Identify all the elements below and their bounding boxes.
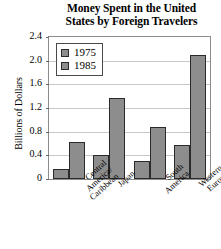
bar-1985-3 (150, 127, 166, 179)
legend: 1975 1985 (56, 43, 103, 76)
legend-swatch-1985 (61, 62, 69, 70)
chart-title-line-2: States by Foreign Travelers (44, 15, 219, 28)
legend-label-1985: 1985 (74, 60, 96, 71)
chart-title: Money Spent in the United States by Fore… (44, 2, 219, 27)
bar-group (174, 37, 206, 179)
legend-swatch-1975 (61, 49, 69, 57)
bar-chart: Money Spent in the United States by Fore… (0, 0, 221, 249)
bar-1985-4 (190, 55, 206, 179)
chart-title-line-1: Money Spent in the United (44, 2, 219, 15)
y-axis-tick-label: 2.0 (16, 55, 42, 65)
legend-item-1985: 1985 (61, 59, 96, 72)
bar-1985-2 (109, 98, 125, 179)
y-axis-tick-label: 1.2 (16, 102, 42, 112)
legend-item-1975: 1975 (61, 46, 96, 59)
bar-group (134, 37, 166, 179)
bar-1975-1 (53, 169, 69, 179)
y-axis-tick-label: 0.8 (16, 126, 42, 136)
y-axis-tick-label: 0 (16, 173, 42, 183)
y-axis-tick-label: 2.4 (16, 31, 42, 41)
y-axis-tick-label: 0.4 (16, 149, 42, 159)
y-axis-tick (46, 179, 49, 180)
x-axis-category-labels: CentralAmerica/CaribbeanJapanSouthAmeric… (48, 182, 211, 248)
y-axis-tick-label: 1.6 (16, 78, 42, 88)
legend-label-1975: 1975 (74, 47, 96, 58)
